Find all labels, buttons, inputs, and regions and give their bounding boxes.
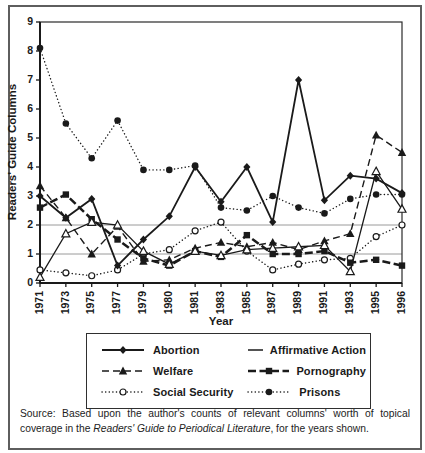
x-axis-ticks: 1971197319751977197919801981198319851987…	[33, 283, 407, 314]
legend-item-pornography: Pornography	[246, 364, 366, 378]
legend-item-prisons: Prisons	[246, 385, 366, 399]
chart-legend: AbortionAffirmative ActionWelfarePornogr…	[86, 333, 371, 409]
chart-plot-area: 0123456789197119731975197719791980198119…	[27, 15, 407, 315]
data-point-filled-square	[373, 257, 379, 263]
data-point-open-circle	[166, 247, 172, 253]
data-point-open-circle	[399, 222, 405, 228]
legend-sample-filled-diamond-icon	[100, 343, 146, 357]
data-point-filled-triangle	[217, 238, 225, 246]
data-point-open-circle	[321, 257, 327, 263]
data-point-filled-triangle	[346, 229, 354, 237]
legend-label: Abortion	[153, 344, 200, 356]
legend-sample-open-circle-icon	[100, 385, 146, 399]
y-tick-label: 5	[27, 131, 33, 143]
y-tick-label: 9	[27, 15, 33, 27]
data-point-filled-circle	[373, 191, 380, 198]
x-tick-label: 1995	[369, 291, 381, 315]
x-tick-label: 1980	[162, 291, 174, 315]
y-tick-label: 4	[27, 160, 33, 172]
data-point-open-triangle	[36, 273, 44, 280]
x-tick-label: 1991	[317, 291, 329, 315]
legend-label: Welfare	[153, 365, 193, 377]
x-tick-label: 1981	[188, 291, 200, 315]
data-point-filled-triangle	[398, 148, 406, 156]
x-tick-label: 1971	[33, 291, 45, 315]
legend-item-abortion: Abortion	[100, 343, 246, 357]
data-point-filled-square	[114, 236, 120, 242]
y-tick-label: 1	[27, 247, 33, 259]
data-point-filled-circle	[295, 204, 302, 211]
line-chart: 0123456789197119731975197719791980198119…	[0, 0, 425, 332]
data-point-filled-square	[266, 368, 272, 374]
legend-item-affirmative-action: Affirmative Action	[246, 343, 366, 357]
data-point-filled-square	[63, 191, 69, 197]
x-tick-label: 1975	[84, 291, 96, 315]
data-point-filled-diamond	[295, 76, 302, 84]
y-tick-label: 0	[27, 276, 33, 288]
data-point-open-triangle	[62, 230, 70, 237]
legend-label: Prisons	[299, 386, 340, 398]
source-text-end: , for the years shown.	[270, 423, 368, 434]
x-tick-label: 1979	[136, 291, 148, 315]
legend-sample-open-triangle-icon	[246, 343, 263, 357]
x-tick-label: 1989	[291, 291, 303, 315]
data-point-open-circle	[192, 228, 198, 234]
y-tick-label: 8	[27, 44, 33, 56]
x-tick-label: 1987	[265, 291, 277, 315]
x-axis-title: Year	[209, 315, 234, 327]
x-tick-label: 1985	[240, 291, 252, 315]
data-point-filled-circle	[63, 120, 70, 127]
x-tick-label: 1973	[59, 291, 71, 315]
data-point-filled-diamond	[119, 346, 126, 354]
data-point-filled-circle	[166, 167, 173, 174]
source-citation-italic: Readers' Guide to Periodical Literature	[93, 423, 270, 434]
legend-label: Pornography	[296, 365, 366, 377]
data-point-filled-circle	[140, 167, 147, 174]
data-point-open-circle	[296, 261, 302, 267]
source-note: Source: Based upon the author's counts o…	[20, 406, 410, 437]
data-point-filled-square	[37, 204, 43, 210]
data-point-open-circle	[218, 219, 224, 225]
legend-label: Affirmative Action	[270, 344, 366, 356]
y-axis-title: Readers' Guide Columns	[6, 84, 18, 220]
legend-item-welfare: Welfare	[100, 364, 246, 378]
data-point-filled-circle	[266, 389, 273, 396]
legend-sample-filled-triangle-icon	[100, 364, 146, 378]
x-tick-label: 1993	[343, 291, 355, 315]
data-point-filled-square	[244, 232, 250, 238]
data-point-filled-circle	[269, 193, 276, 200]
legend-sample-filled-square-icon	[246, 364, 289, 378]
data-point-filled-circle	[244, 207, 251, 214]
legend-item-social-security: Social Security	[100, 385, 246, 399]
y-tick-label: 3	[27, 189, 33, 201]
data-point-open-circle	[89, 273, 95, 279]
data-point-filled-circle	[37, 45, 44, 52]
data-point-filled-circle	[88, 155, 95, 162]
x-tick-label: 1996	[395, 291, 407, 315]
data-point-open-circle	[373, 234, 379, 240]
x-tick-label: 1977	[110, 291, 122, 315]
y-tick-label: 7	[27, 73, 33, 85]
data-point-filled-circle	[114, 117, 121, 124]
y-axis-ticks: 0123456789	[27, 15, 40, 288]
data-point-filled-circle	[347, 196, 354, 203]
data-point-open-triangle	[372, 167, 380, 174]
x-tick-label: 1983	[214, 291, 226, 315]
data-point-filled-circle	[321, 210, 328, 217]
series-prisons	[37, 45, 406, 217]
data-point-filled-triangle	[372, 131, 380, 139]
y-tick-label: 6	[27, 102, 33, 114]
legend-label: Social Security	[153, 386, 233, 398]
data-point-open-circle	[63, 270, 69, 276]
data-point-filled-square	[399, 262, 405, 268]
data-point-filled-triangle	[36, 181, 44, 189]
data-point-open-circle	[120, 389, 126, 395]
legend-sample-filled-circle-icon	[246, 385, 292, 399]
data-point-open-circle	[270, 267, 276, 273]
y-tick-label: 2	[27, 218, 33, 230]
